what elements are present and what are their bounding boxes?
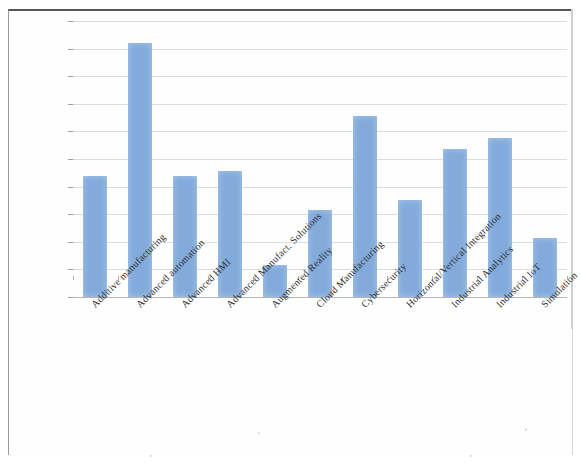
bar	[83, 176, 107, 297]
bar-slot	[73, 21, 118, 297]
bar	[173, 176, 197, 297]
bar-slot	[522, 21, 567, 297]
scan-artifact	[150, 455, 152, 457]
bar	[398, 200, 422, 297]
scan-artifact	[258, 432, 260, 434]
scan-artifact	[470, 455, 472, 457]
bar-chart: 20%18%16%14%12%10%8%6%4%2%0% Additive ma…	[0, 0, 581, 463]
x-axis-tick-mark	[73, 276, 74, 280]
bar	[218, 171, 242, 297]
y-axis-tick-mark	[68, 297, 73, 298]
bar-slot	[387, 21, 432, 297]
scan-artifact	[525, 428, 527, 431]
bar-slot	[208, 21, 253, 297]
